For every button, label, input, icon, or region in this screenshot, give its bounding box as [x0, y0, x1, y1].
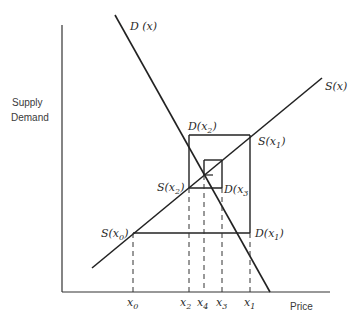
tick-label-x0: x0 — [127, 296, 138, 311]
y-axis-label-demand: Demand — [11, 112, 49, 123]
point-label-S-x0: S(x0) — [101, 227, 128, 242]
point-label-D-x2: D(x2) — [187, 120, 217, 135]
tick-label-x1: x1 — [244, 296, 255, 311]
supply-curve-label: S(x) — [325, 80, 347, 93]
cobweb-diagram: Supply Demand Price D (x) S(x) S(x0) D(x… — [0, 0, 364, 327]
point-label-S-x2: S(x2) — [157, 181, 184, 196]
point-label-D-x3: D(x3 — [223, 183, 248, 198]
tick-label-x4: x4 — [197, 296, 208, 311]
point-label-D-x1: D(x1) — [254, 227, 284, 242]
point-label-S-x1: S(x1) — [258, 135, 285, 150]
tick-label-x3: x3 — [216, 296, 227, 311]
demand-curve — [115, 15, 270, 292]
demand-curve-label: D (x) — [129, 20, 157, 33]
y-axis-label-supply: Supply — [12, 97, 43, 108]
tick-label-x2: x2 — [180, 296, 191, 311]
x-axis-label-price: Price — [290, 301, 313, 312]
